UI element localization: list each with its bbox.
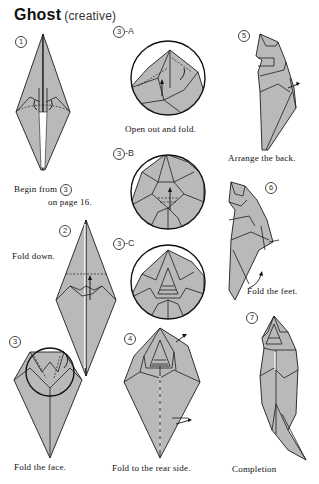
step-5-diagram <box>256 32 306 152</box>
step-2-caption: Fold down. <box>12 251 55 261</box>
step-3c-diagram <box>128 242 208 322</box>
step-4-diagram <box>124 326 204 460</box>
step-3-number: 3 <box>9 336 21 348</box>
step-7-diagram <box>252 314 312 464</box>
title-subtitle: (creative) <box>64 9 116 23</box>
page-title: Ghost(creative) <box>14 6 116 24</box>
step-4-caption: Fold to the rear side. <box>112 463 191 473</box>
title-text: Ghost <box>14 6 61 23</box>
step-3b-diagram <box>128 152 208 232</box>
step-5-caption: Arrange the back. <box>228 153 296 163</box>
begin-note-ref: 3 <box>60 184 72 196</box>
step-7-caption: Completion <box>232 464 277 474</box>
step-1-diagram <box>12 32 82 172</box>
step-3-diagram <box>10 348 90 460</box>
begin-note-line2: on page 16. <box>48 197 92 207</box>
step-5-number: 5 <box>238 30 250 42</box>
step-3-caption: Fold the face. <box>14 462 66 472</box>
step-3a-diagram <box>128 38 208 118</box>
step-3a-caption: Open out and fold. <box>125 124 196 134</box>
step-6-caption: Fold the feet. <box>247 286 298 296</box>
begin-note-line1: Begin from 3 <box>14 184 72 196</box>
step-3a-number: 3-A <box>113 26 134 38</box>
